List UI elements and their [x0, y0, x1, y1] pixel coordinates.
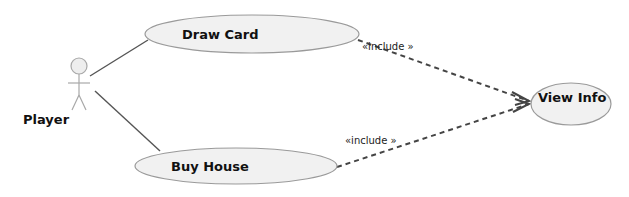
association-player-buy-house: [95, 91, 160, 151]
actor-label: Player: [23, 112, 70, 127]
use-case-diagram: «include » «include » Draw Card Buy Hous…: [0, 0, 629, 197]
include-label-lower: «include »: [345, 135, 397, 146]
use-case-label: Draw Card: [182, 27, 259, 42]
use-case-label: View Info: [538, 90, 606, 105]
include-label-upper: «include »: [362, 41, 414, 52]
stick-figure-icon: [68, 58, 90, 110]
use-case-view-info[interactable]: View Info: [531, 83, 611, 125]
use-case-draw-card[interactable]: Draw Card: [145, 15, 359, 53]
use-case-label: Buy House: [171, 159, 249, 174]
actor-player[interactable]: Player: [23, 58, 90, 127]
use-case-buy-house[interactable]: Buy House: [135, 148, 337, 184]
association-player-draw-card: [90, 40, 148, 76]
